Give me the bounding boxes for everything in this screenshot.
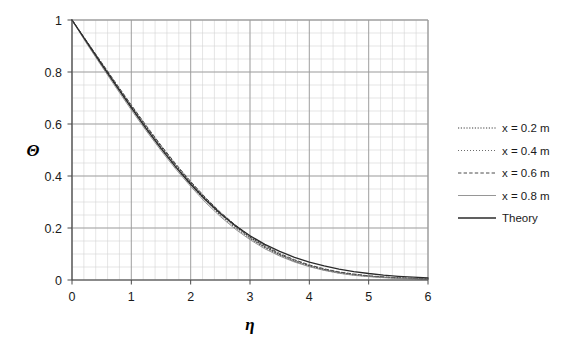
legend-label-4[interactable]: Theory (502, 212, 538, 224)
legend: x = 0.2 mx = 0.4 mx = 0.6 mx = 0.8 mTheo… (458, 122, 550, 224)
legend-label-0[interactable]: x = 0.2 m (502, 122, 550, 134)
legend-label-2[interactable]: x = 0.6 m (502, 167, 550, 179)
x-axis-title: η (245, 315, 254, 334)
y-tick-label: 0.8 (45, 66, 62, 80)
chart-canvas: 0123456 00.20.40.60.81 Θ η x = 0.2 mx = … (0, 0, 567, 346)
y-tick-label: 0.4 (45, 170, 62, 184)
chart-figure: 0123456 00.20.40.60.81 Θ η x = 0.2 mx = … (0, 0, 567, 346)
axis-tick-marks (68, 20, 429, 285)
legend-label-1[interactable]: x = 0.4 m (502, 145, 550, 157)
y-axis-tick-labels: 00.20.40.60.81 (45, 14, 62, 288)
x-tick-label: 4 (306, 290, 313, 304)
x-tick-label: 2 (187, 290, 194, 304)
y-tick-label: 1 (55, 14, 62, 28)
x-tick-label: 5 (365, 290, 372, 304)
legend-label-3[interactable]: x = 0.8 m (502, 190, 550, 202)
x-axis-tick-labels: 0123456 (69, 290, 432, 304)
y-tick-label: 0 (55, 274, 62, 288)
x-tick-label: 0 (69, 290, 76, 304)
y-axis-title: Θ (27, 141, 40, 160)
x-tick-label: 6 (425, 290, 432, 304)
x-tick-label: 3 (247, 290, 254, 304)
x-tick-label: 1 (128, 290, 135, 304)
y-tick-label: 0.2 (45, 222, 62, 236)
y-tick-label: 0.6 (45, 118, 62, 132)
